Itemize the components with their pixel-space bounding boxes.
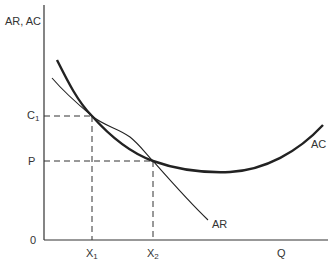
- origin-label: 0: [30, 235, 36, 246]
- p-tick-label: P: [28, 156, 35, 169]
- x1-tick-sub: 1: [93, 252, 97, 261]
- ar-curve-label: AR: [212, 219, 227, 230]
- p-tick-base: P: [28, 155, 35, 167]
- x-axis-label: Q: [277, 248, 286, 259]
- ac-curve: [57, 60, 323, 172]
- x1-tick-label: X1: [86, 248, 98, 261]
- c1-tick-base: C: [27, 109, 35, 121]
- cost-revenue-diagram: [0, 0, 335, 261]
- y-axis-label: AR, AC: [5, 16, 41, 27]
- c1-tick-label: C1: [27, 110, 39, 123]
- ac-curve-label: AC: [311, 139, 326, 150]
- c1-tick-sub: 1: [35, 114, 39, 123]
- x2-tick-label: X2: [147, 248, 159, 261]
- x2-tick-sub: 2: [154, 252, 158, 261]
